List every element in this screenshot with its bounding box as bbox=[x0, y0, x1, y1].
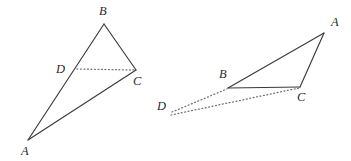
left-vertex-label-C: C bbox=[133, 74, 142, 88]
left-vertex-label-B: B bbox=[99, 4, 107, 18]
geometry-figure-canvas: A B C D A B C D bbox=[0, 0, 351, 161]
right-vertex-label-A: A bbox=[330, 15, 339, 29]
left-vertex-label-D: D bbox=[55, 62, 65, 76]
right-vertex-label-B: B bbox=[219, 67, 227, 81]
figure-background bbox=[0, 0, 351, 161]
left-vertex-label-A: A bbox=[20, 144, 29, 158]
right-vertex-label-C: C bbox=[297, 90, 306, 104]
right-vertex-label-D: D bbox=[156, 99, 166, 113]
